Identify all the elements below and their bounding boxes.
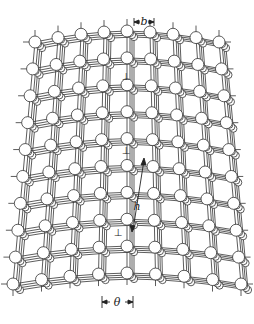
dislocation-symbol-2: ⊥ (122, 145, 131, 156)
dislocation-symbol-3: ⊥ (114, 227, 123, 238)
spacing-label: h (133, 200, 140, 213)
dislocation-symbol-1: ⊥ (122, 71, 131, 82)
tilt-angle-label: θ (114, 296, 121, 309)
tilt-boundary-diagram: b h θ ⊥ ⊥ ⊥ (0, 0, 254, 324)
lattice-atoms (7, 25, 252, 294)
burgers-vector-label: b (140, 15, 147, 28)
